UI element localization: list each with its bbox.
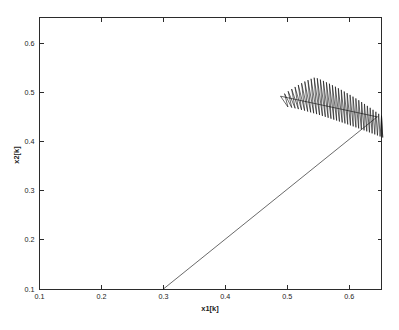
phase-portrait-chart: 0.10.20.30.40.50.6 0.10.20.30.40.50.6 x1…	[0, 0, 399, 330]
figure-canvas: 0.10.20.30.40.50.6 0.10.20.30.40.50.6 x1…	[0, 0, 399, 330]
x-tick-label: 0.1	[35, 292, 45, 301]
y-tick-label: 0.4	[25, 137, 35, 146]
y-tick-label: 0.3	[25, 186, 35, 195]
y-tick-label: 0.1	[25, 285, 35, 294]
x-tick-label: 0.6	[344, 292, 354, 301]
x-axis-title: x1[k]	[201, 304, 219, 313]
x-tick-label: 0.5	[282, 292, 292, 301]
y-tick-label: 0.5	[25, 88, 35, 97]
y-axis-title: x2[k]	[12, 146, 21, 164]
chart-background	[0, 0, 399, 330]
y-tick-label: 0.6	[25, 39, 35, 48]
x-tick-label: 0.4	[220, 292, 230, 301]
x-tick-label: 0.2	[96, 292, 106, 301]
y-tick-label: 0.2	[25, 235, 35, 244]
x-tick-label: 0.3	[158, 292, 168, 301]
